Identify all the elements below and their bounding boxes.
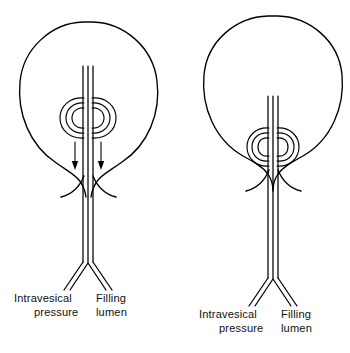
bladder-outline-left: [20, 22, 158, 197]
label-intravesical-left-line1: Intravesical: [14, 292, 72, 304]
figure-root: Intravesical pressure Filling lumen: [0, 0, 350, 353]
coil-arc-inner-right: [92, 108, 104, 128]
coil-arc-inner-left-right-panel: [258, 138, 269, 156]
label-intravesical-right-line1: Intravesical: [199, 308, 257, 320]
coil-arc-inner-right-right-panel: [277, 138, 288, 156]
bladder-neck-flare-right-panel-left: [246, 170, 269, 191]
label-filling-left-line2: lumen: [96, 306, 127, 318]
cropped-caption-fragment: [6, 346, 344, 353]
bladder-neck-flare-left-side: [61, 176, 84, 197]
left-panel: Intravesical pressure Filling lumen: [14, 22, 158, 318]
label-filling-left-line1: Filling: [96, 292, 126, 304]
bladder-catheter-diagram: Intravesical pressure Filling lumen: [0, 0, 350, 353]
bladder-neck-flare-right-panel-right: [278, 170, 301, 191]
coil-arc-mid-left-right-panel: [252, 133, 269, 161]
coil-arc-mid-right-right-panel: [277, 133, 294, 161]
pressure-arrow-left: [72, 142, 78, 170]
label-filling-right-line2: lumen: [281, 322, 312, 334]
label-filling-right-line1: Filling: [281, 308, 311, 320]
right-panel: Intravesical pressure Filling lumen: [199, 16, 342, 334]
label-intravesical-right-line2: pressure: [219, 322, 263, 334]
label-intravesical-left-line2: pressure: [34, 306, 78, 318]
coil-arc-inner-left: [72, 108, 84, 128]
pressure-arrow-right: [98, 142, 104, 170]
bladder-neck-flare-right-side: [93, 176, 116, 197]
